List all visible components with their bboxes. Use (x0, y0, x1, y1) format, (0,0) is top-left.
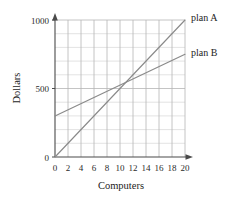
y-axis-arrow (52, 13, 58, 21)
x-tick-label-0: 0 (53, 163, 58, 173)
line-chart: 1000 500 0 0 2 4 6 8 10 12 14 16 18 20 C… (0, 0, 231, 201)
x-tick-label-20: 20 (181, 163, 191, 173)
x-tick-label-16: 16 (155, 163, 165, 173)
x-axis-title: Computers (98, 180, 144, 191)
x-tick-label-4: 4 (79, 163, 84, 173)
y-axis-title: Dollars (11, 73, 22, 104)
x-tick-label-12: 12 (129, 163, 138, 173)
x-tick-label-18: 18 (168, 163, 178, 173)
series-label-plan-b: plan B (191, 47, 218, 58)
x-tick-label-8: 8 (105, 163, 110, 173)
y-tick-label-500: 500 (36, 84, 50, 94)
x-axis-arrow (186, 154, 194, 160)
x-tick-label-2: 2 (66, 163, 71, 173)
chart-container: 1000 500 0 0 2 4 6 8 10 12 14 16 18 20 C… (0, 0, 231, 201)
y-axis (52, 13, 58, 157)
x-tick-label-6: 6 (92, 163, 97, 173)
y-tick-label-1000: 1000 (31, 16, 50, 26)
series-label-plan-a: plan A (191, 12, 218, 23)
x-tick-label-14: 14 (142, 163, 152, 173)
y-tick-label-0: 0 (45, 153, 50, 163)
x-tick-label-10: 10 (116, 163, 126, 173)
